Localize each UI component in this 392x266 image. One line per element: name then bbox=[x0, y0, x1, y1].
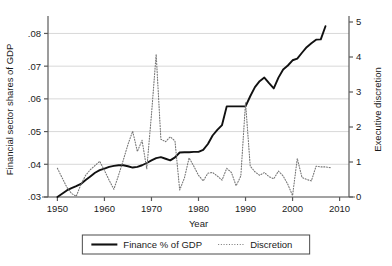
y-tick-label-right-2: 2 bbox=[356, 121, 361, 132]
y-tick-label-left-3: .06 bbox=[28, 93, 41, 104]
x-tick-label-6: 2010 bbox=[329, 203, 350, 214]
chart-container: .03.04.05.06.07.080123451950196019701980… bbox=[0, 0, 392, 266]
y-tick-label-left-0: .03 bbox=[28, 191, 41, 202]
y-tick-label-left-2: .05 bbox=[28, 126, 41, 137]
y-tick-label-right-5: 5 bbox=[356, 16, 361, 27]
x-tick-label-1: 1960 bbox=[94, 203, 115, 214]
y-tick-label-right-3: 3 bbox=[356, 86, 361, 97]
y-axis-title-right: Executive discretion bbox=[372, 67, 383, 151]
axes bbox=[42, 16, 355, 197]
legend-label-2: Discretion bbox=[250, 239, 292, 250]
y-tick-label-right-1: 1 bbox=[356, 156, 361, 167]
y-tick-label-left-4: .07 bbox=[28, 61, 41, 72]
x-tick-label-5: 2000 bbox=[282, 203, 303, 214]
line-chart: .03.04.05.06.07.080123451950196019701980… bbox=[0, 0, 392, 266]
y-tick-label-left-5: .08 bbox=[28, 28, 41, 39]
series-group bbox=[57, 26, 330, 197]
y-axis-right: 012345 bbox=[349, 16, 361, 202]
x-tick-label-2: 1970 bbox=[141, 203, 162, 214]
y-tick-label-right-4: 4 bbox=[356, 51, 361, 62]
x-tick-label-0: 1950 bbox=[47, 203, 68, 214]
y-tick-label-right-0: 0 bbox=[356, 191, 361, 202]
series-line-finance-of-gdp bbox=[57, 26, 325, 197]
legend-label-1: Finance % of GDP bbox=[123, 239, 202, 250]
chart-legend: Finance % of GDPDiscretion bbox=[82, 235, 309, 254]
x-axis-title: Year bbox=[189, 218, 208, 229]
y-axis-title-left: Financial sector shares of GDP bbox=[4, 44, 15, 175]
y-tick-label-left-1: .04 bbox=[28, 159, 41, 170]
x-axis: 1950196019701980199020002010 bbox=[47, 197, 350, 214]
series-line-discretion bbox=[57, 54, 330, 196]
gridlines bbox=[48, 33, 349, 197]
x-tick-label-4: 1990 bbox=[235, 203, 256, 214]
y-axis-left: .03.04.05.06.07.08 bbox=[28, 28, 48, 203]
x-tick-label-3: 1980 bbox=[188, 203, 209, 214]
